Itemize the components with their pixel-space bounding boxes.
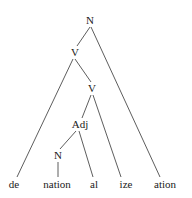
edge-v2-ize [93,95,121,177]
leaf-ation: ation [154,179,176,190]
node-v2: V [88,83,96,94]
tree-diagram [0,0,192,198]
tree-edges [17,27,160,177]
edge-root-ation [91,27,160,177]
edge-root-v1 [77,27,90,46]
leaf-al: al [90,179,98,190]
edge-v1-v2 [75,59,91,82]
edge-v1-de [17,59,73,177]
node-adj: Adj [72,119,89,130]
node-root-n: N [86,15,94,26]
leaf-de: de [9,179,19,190]
leaf-nation: nation [43,179,71,190]
leaf-ize: ize [120,179,133,190]
edge-adj-n2 [60,131,76,149]
node-n2: N [54,150,62,161]
edge-adj-al [79,131,93,177]
node-v1: V [71,47,79,58]
edge-v2-adj [82,95,91,118]
